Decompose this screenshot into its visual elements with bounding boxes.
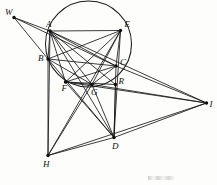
- point-label-W: W: [5, 8, 13, 17]
- vertex-E: [119, 29, 122, 32]
- point-label-I: I: [210, 100, 213, 109]
- vertices-layer: [12, 16, 208, 157]
- point-label-A: A: [46, 20, 52, 29]
- segment-E-F: [66, 31, 121, 83]
- segment-D-I: [114, 103, 207, 138]
- point-label-E: E: [125, 20, 131, 29]
- point-label-C: C: [120, 58, 126, 67]
- segment-G-I: [92, 85, 207, 104]
- geometry-figure: WAEBCFGRHDI: [0, 0, 217, 185]
- segments-layer: [14, 18, 207, 156]
- caption-smudge: [148, 176, 174, 180]
- geometry-canvas: [0, 0, 217, 185]
- vertex-B: [46, 57, 49, 60]
- segment-G-H: [48, 85, 92, 156]
- segment-A-E: [50, 31, 121, 32]
- point-label-F: F: [62, 84, 68, 93]
- segment-H-I: [48, 103, 207, 156]
- vertex-G: [90, 83, 93, 86]
- vertex-I: [205, 101, 208, 104]
- point-label-B: B: [38, 54, 44, 63]
- segment-F-D: [66, 82, 115, 138]
- vertex-R: [114, 83, 117, 86]
- segment-A-I: [50, 31, 207, 103]
- segment-C-I: [116, 66, 207, 103]
- vertex-A: [48, 29, 51, 32]
- point-label-H: H: [43, 160, 50, 169]
- segment-W-C: [14, 18, 116, 67]
- vertex-H: [46, 154, 49, 157]
- vertex-C: [114, 64, 117, 67]
- vertex-D: [112, 136, 115, 139]
- point-label-R: R: [119, 77, 125, 86]
- point-label-D: D: [112, 142, 119, 151]
- point-label-G: G: [91, 88, 98, 97]
